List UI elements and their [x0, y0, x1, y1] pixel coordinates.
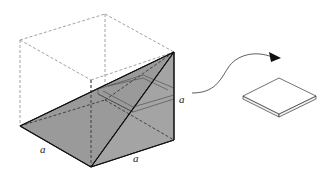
cube-diagram: a a a	[0, 0, 330, 175]
label-left-edge: a	[40, 143, 46, 155]
label-front-edge: a	[133, 152, 139, 164]
label-right-edge: a	[179, 93, 185, 105]
extracted-slab	[243, 78, 316, 117]
